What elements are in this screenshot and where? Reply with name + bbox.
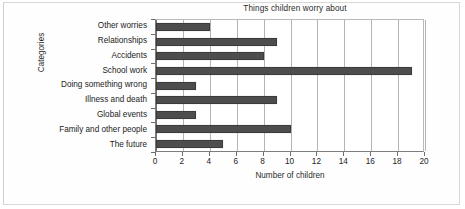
x-tick-mark bbox=[316, 152, 317, 156]
bar-row bbox=[156, 107, 423, 122]
x-tick-label: 4 bbox=[207, 157, 212, 166]
category-label: Family and other people bbox=[20, 122, 151, 137]
plot-area bbox=[155, 19, 424, 152]
bar bbox=[156, 23, 210, 31]
x-tick-mark bbox=[209, 152, 210, 156]
bar bbox=[156, 82, 196, 90]
x-tick-mark bbox=[370, 152, 371, 156]
x-tick-mark bbox=[397, 152, 398, 156]
x-tick-label: 10 bbox=[285, 157, 294, 166]
x-tick-mark bbox=[263, 152, 264, 156]
x-tick-mark bbox=[424, 152, 425, 156]
bar-row bbox=[156, 122, 423, 137]
x-axis-ticks: 02468101214161820 bbox=[155, 152, 425, 157]
category-axis-labels: Other worriesRelationshipsAccidentsSchoo… bbox=[20, 19, 151, 152]
bar-row bbox=[156, 49, 423, 64]
chart-screenshot: Things children worry about Categories O… bbox=[0, 0, 465, 209]
bar bbox=[156, 67, 412, 75]
bar-row bbox=[156, 20, 423, 35]
x-axis-title: Number of children bbox=[155, 171, 425, 180]
bar-row bbox=[156, 64, 423, 79]
category-label: Doing something wrong bbox=[20, 78, 151, 93]
x-tick-mark bbox=[155, 152, 156, 156]
x-tick-mark bbox=[236, 152, 237, 156]
bar bbox=[156, 52, 264, 60]
x-tick-label: 18 bbox=[393, 157, 402, 166]
bar-row bbox=[156, 78, 423, 93]
bar bbox=[156, 140, 223, 148]
category-label: The future bbox=[20, 137, 151, 152]
x-tick-label: 12 bbox=[312, 157, 321, 166]
x-tick-mark bbox=[343, 152, 344, 156]
x-tick-mark bbox=[290, 152, 291, 156]
chart-title: Things children worry about bbox=[150, 4, 440, 13]
bar bbox=[156, 96, 277, 104]
x-tick-label: 0 bbox=[153, 157, 158, 166]
bar bbox=[156, 111, 196, 119]
category-label: Relationships bbox=[20, 34, 151, 49]
x-tick-label: 14 bbox=[339, 157, 348, 166]
category-label: School work bbox=[20, 63, 151, 78]
x-tick-mark bbox=[182, 152, 183, 156]
bar-row bbox=[156, 35, 423, 50]
category-label: Accidents bbox=[20, 49, 151, 64]
x-tick-label: 6 bbox=[233, 157, 238, 166]
bar-row bbox=[156, 93, 423, 108]
x-tick-label: 16 bbox=[366, 157, 375, 166]
bar bbox=[156, 125, 291, 133]
x-tick-label: 8 bbox=[260, 157, 265, 166]
category-label: Other worries bbox=[20, 19, 151, 34]
bar bbox=[156, 38, 277, 46]
bar-series bbox=[156, 20, 423, 151]
category-label: Illness and death bbox=[20, 93, 151, 108]
category-label: Global events bbox=[20, 108, 151, 123]
bar-row bbox=[156, 137, 423, 152]
x-tick-label: 20 bbox=[419, 157, 428, 166]
x-tick-label: 2 bbox=[180, 157, 185, 166]
